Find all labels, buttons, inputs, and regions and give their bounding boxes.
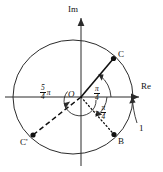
point-C-dot	[111, 56, 116, 61]
real-axis-label: Re	[141, 82, 151, 91]
pi-symbol-trailing: π	[47, 89, 51, 97]
fraction-pi-over-4-negative: π 4	[101, 104, 107, 121]
imaginary-axis-label: Im	[68, 5, 78, 14]
complex-plane-figure: Im Re O C B C' 1 5 4 π π 4 − π 4	[0, 0, 163, 172]
origin-label: O	[68, 90, 75, 99]
point-label-C: C	[118, 50, 124, 59]
point-label-C-prime: C'	[20, 138, 28, 147]
point-C-prime-dot	[30, 132, 35, 137]
fraction-five-fourths: 5 4	[40, 84, 46, 101]
unit-marker-label: 1	[139, 124, 144, 133]
angle-label-five-pi-over-4: 5 4 π	[40, 77, 51, 101]
point-label-B: B	[118, 137, 124, 146]
radius-to-C-prime	[33, 97, 81, 135]
point-B-dot	[111, 132, 116, 137]
fraction-pi-over-4: π 4	[94, 85, 100, 102]
angle-label-pi-over-4: π 4	[94, 78, 100, 102]
minus-sign: −	[95, 108, 100, 116]
unit-marker-leader	[133, 100, 138, 124]
imaginary-axis-arrowhead	[78, 18, 85, 26]
angle-label-negative-pi-over-4: − π 4	[95, 101, 106, 120]
